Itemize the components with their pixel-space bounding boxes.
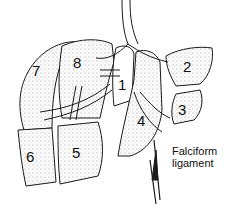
segment-6-label: 6 — [26, 148, 34, 165]
diagram-canvas: 7 8 1 2 3 4 5 6 — [0, 0, 227, 208]
segment-5-label: 5 — [72, 144, 80, 161]
segment-6-shape — [18, 128, 56, 186]
segment-3-label: 3 — [178, 101, 186, 118]
falciform-label-line1: Falciform — [172, 145, 217, 157]
falciform-ligament-label: Falciform ligament — [172, 145, 217, 169]
segment-7-label: 7 — [32, 62, 40, 79]
segment-8-label: 8 — [73, 54, 81, 71]
segment-2-label: 2 — [183, 58, 191, 75]
segment-3-shape — [172, 90, 202, 124]
segment-1-label: 1 — [118, 76, 126, 93]
falciform-label-line2: ligament — [172, 157, 217, 169]
liver-segments-diagram: 7 8 1 2 3 4 5 6 Falciform ligament — [0, 0, 227, 208]
segment-4-label: 4 — [137, 112, 145, 129]
